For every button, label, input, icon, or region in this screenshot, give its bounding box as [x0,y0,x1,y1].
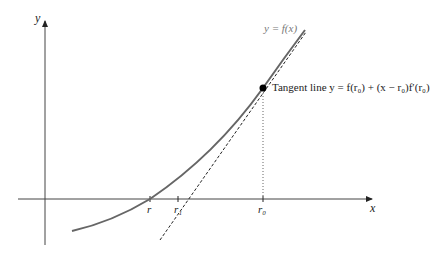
function-curve [72,30,305,231]
curve-label: y = f(x) [264,22,297,34]
newton-method-diagram: y x y = f(x) Tangent line y = f(r₀) + (x… [0,0,441,255]
tangent-point [260,85,267,92]
r0-label: r₀ [258,203,266,215]
x-axis-label: x [370,201,375,216]
r-label: r [147,203,151,215]
r1-label: r₁ [174,203,182,215]
tangent-label: Tangent line y = f(r₀) + (x − r₀)f′(r₀) [272,81,430,93]
diagram-canvas [0,0,441,255]
y-axis-label: y [35,11,40,26]
